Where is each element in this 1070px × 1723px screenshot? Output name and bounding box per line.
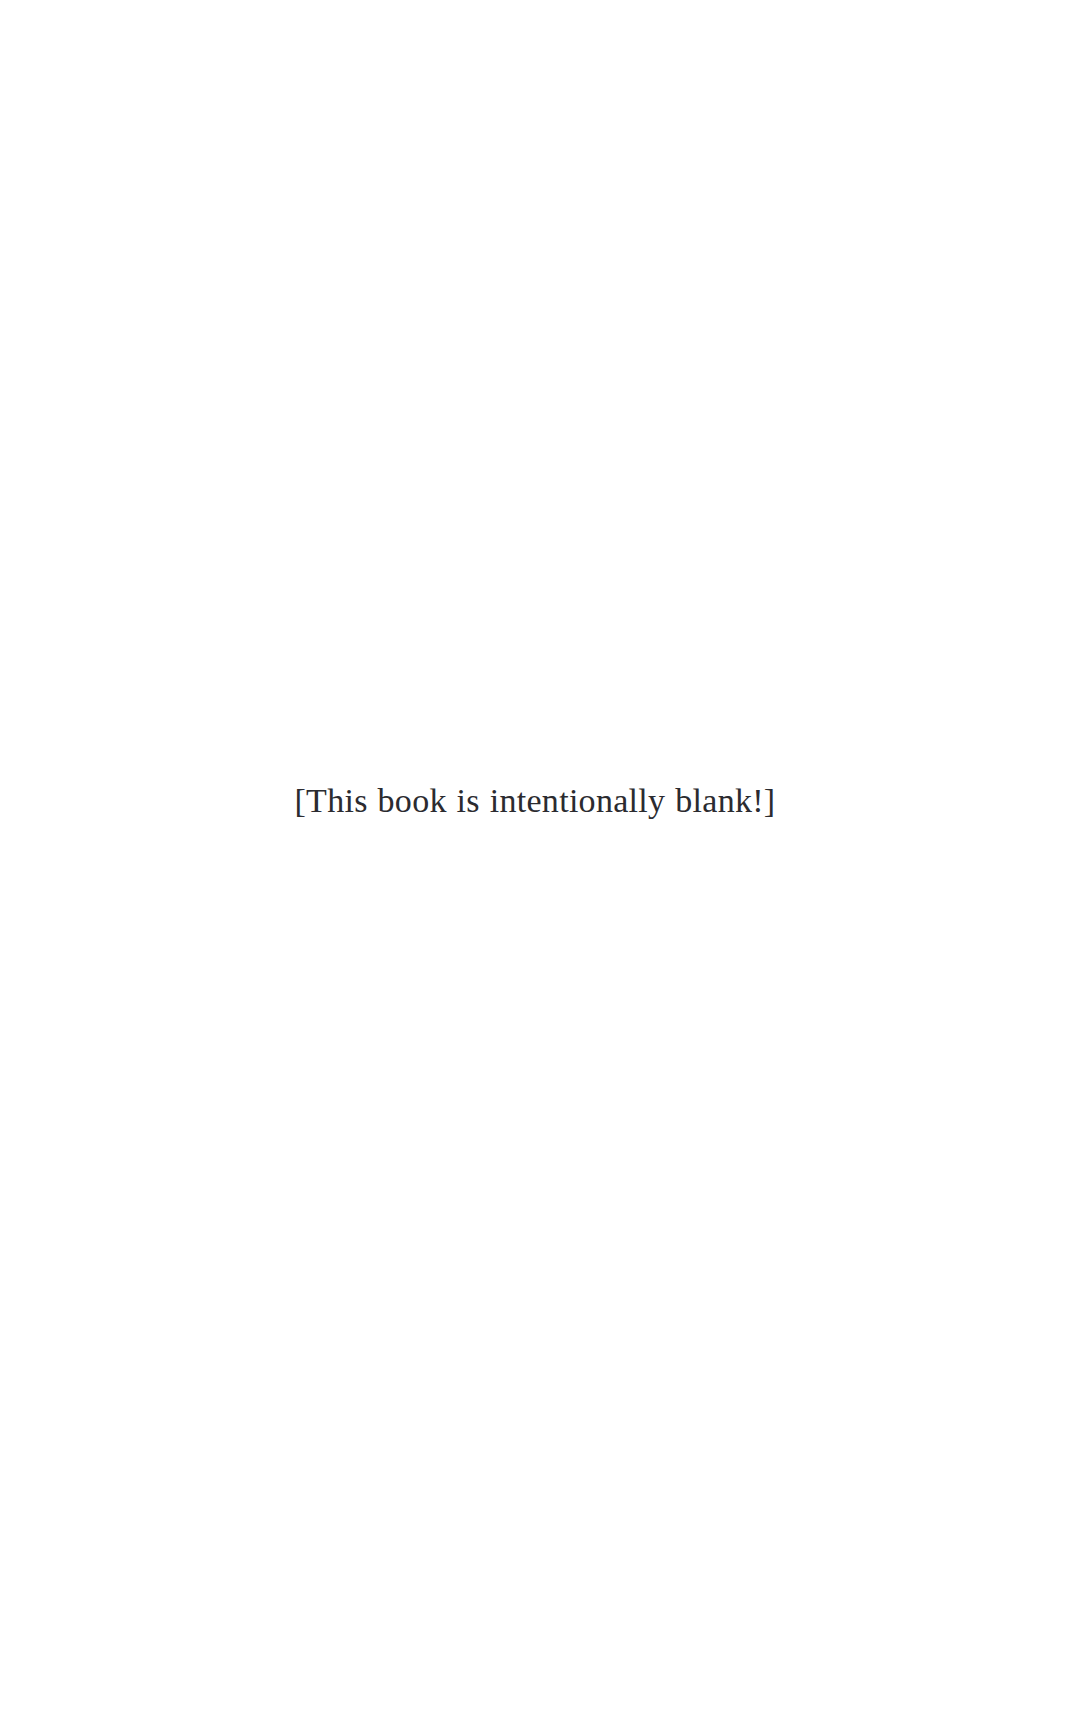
blank-page-notice: [This book is intentionally blank!] — [0, 784, 1070, 818]
blank-page-notice-text: [This book is intentionally blank!] — [295, 784, 776, 818]
book-page: [This book is intentionally blank!] — [0, 0, 1070, 1723]
